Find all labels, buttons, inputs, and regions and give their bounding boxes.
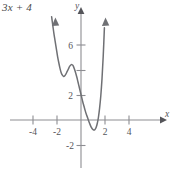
- curve-stroke: [52, 17, 105, 130]
- right-branch-arrowhead: [102, 18, 109, 27]
- x-axis-label: x: [164, 109, 170, 119]
- x-tick-label-2: 2: [103, 127, 108, 137]
- y-axis-label: y: [74, 1, 80, 11]
- x-tick-label--2: -2: [53, 127, 61, 137]
- y-tick-label-2: 2: [68, 91, 73, 101]
- y-tick-label-6: 6: [68, 41, 73, 51]
- coordinate-plot: -4 -2 2 4 6 2 -2 x y: [0, 0, 174, 173]
- y-tick-label--2: -2: [66, 141, 74, 151]
- x-tick-label--4: -4: [29, 127, 37, 137]
- x-tick-label-4: 4: [127, 127, 132, 137]
- graph-figure: 3x + 4 -4 -2 2 4: [0, 0, 174, 173]
